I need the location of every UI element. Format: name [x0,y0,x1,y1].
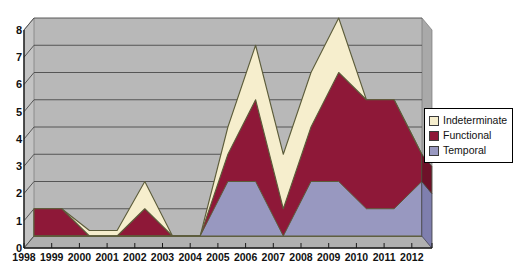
legend-item-temporal[interactable]: Temporal [429,143,507,158]
y-axis-label-3: 3 [0,161,22,171]
chart-legend: Indeterminate Functional Temporal [424,108,513,163]
legend-swatch-functional [429,131,439,141]
y-axis-label-6: 6 [0,79,22,89]
legend-swatch-temporal [429,146,439,156]
y-axis-label-1: 1 [0,216,22,226]
legend-label-indeterminate: Indeterminate [443,115,507,126]
legend-item-indeterminate[interactable]: Indeterminate [429,113,507,128]
legend-label-temporal: Temporal [443,145,486,156]
stacked-area-chart-svg [0,0,460,272]
x-axis-label-2012: 2012 [395,252,429,263]
y-axis-label-2: 2 [0,188,22,198]
legend-label-functional: Functional [443,130,491,141]
chart-plot-area: 8 7 6 5 4 3 2 1 0 1998 1999 2000 2001 20… [0,0,460,272]
chart-screenshot: 8 7 6 5 4 3 2 1 0 1998 1999 2000 2001 20… [0,0,517,272]
legend-item-functional[interactable]: Functional [429,128,507,143]
y-axis-label-5: 5 [0,107,22,117]
plot-floor [24,236,432,248]
y-axis-label-7: 7 [0,52,22,62]
legend-swatch-indeterminate [429,116,439,126]
y-axis-label-8: 8 [0,25,22,35]
y-axis-label-4: 4 [0,134,22,144]
